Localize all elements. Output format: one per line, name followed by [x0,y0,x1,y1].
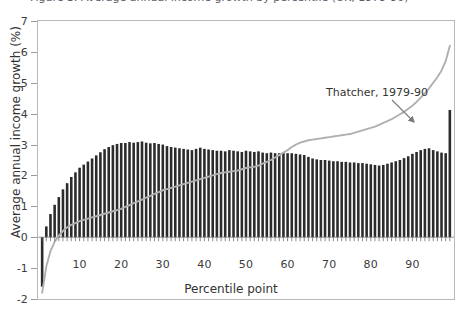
bar [403,158,406,237]
bar [58,197,61,237]
bar [424,149,427,237]
chart-root: Figure 3. Average annual income growth b… [0,0,462,313]
bar [282,153,285,238]
x-axis-label: Percentile point [0,282,462,296]
y-tick-label: -1 [17,262,28,275]
bar [336,161,339,237]
x-tick-label: 50 [239,258,253,271]
bar [224,151,227,237]
bar [41,237,44,286]
bar [195,149,198,237]
bar [166,146,169,237]
bar [399,160,402,237]
bar [261,153,264,238]
bar [428,148,431,237]
bar [207,150,210,238]
bar [220,151,223,237]
bar [415,152,418,237]
bar [87,162,90,238]
bar [394,161,397,237]
bar [103,149,106,237]
bar [411,154,414,237]
bar [345,162,348,237]
bar [116,144,119,237]
bar [307,157,310,237]
x-tick-label: 10 [72,258,86,271]
chart-title: Figure 3. Average annual income growth b… [30,0,409,4]
bar [311,158,314,237]
bar [186,150,189,238]
bar [170,147,173,237]
bar [74,172,77,237]
bar [241,152,244,237]
bar [182,149,185,237]
bar [266,153,269,237]
bar [107,147,110,237]
y-tick-label: 2 [21,169,28,182]
bar [274,153,277,237]
annotation-arrow-icon [390,98,426,130]
bar [253,152,256,237]
bar [436,151,439,237]
bar [95,155,98,237]
y-tick-label: 5 [21,76,28,89]
bar [419,150,422,237]
bar [365,164,368,238]
y-tick-label: 6 [21,45,28,58]
bar [361,163,364,237]
bar [191,150,194,237]
bar [382,165,385,237]
bar [91,158,94,237]
bar [211,150,214,237]
bar [153,143,156,237]
bar [137,142,140,237]
bar [286,153,289,237]
bar [174,148,177,238]
x-tick-label: 20 [114,258,128,271]
bar [357,163,360,237]
bar [149,143,152,237]
bar [236,151,239,237]
bar [390,162,393,237]
y-tick-label: 4 [21,107,28,120]
bar [216,151,219,237]
bar [449,110,452,237]
bar [320,160,323,237]
bar [124,143,127,237]
bar [82,165,85,238]
x-tick-label: 90 [405,258,419,271]
bar [386,164,389,238]
y-axis: 76543210-1-2 [0,0,37,313]
y-tick-label: 0 [21,231,28,244]
y-tick-label: 1 [21,200,28,213]
bar [203,149,206,237]
bar [49,214,52,237]
bar [440,153,443,238]
bar [349,162,352,237]
bar [99,152,102,237]
bar [141,141,144,237]
bar [299,154,302,237]
bar [432,150,435,237]
bar [407,156,410,237]
bar [324,160,327,237]
bar [128,142,131,237]
bar [145,143,148,238]
bar [199,148,202,238]
bar [374,165,377,237]
bar [232,151,235,237]
bar [353,162,356,237]
bar [45,226,48,237]
bar [120,143,123,237]
x-tick-label: 80 [364,258,378,271]
bar [340,162,343,237]
clipped-title-strip: Figure 3. Average annual income growth b… [0,0,462,9]
x-tick-label: 60 [280,258,294,271]
bar [270,153,273,238]
y-tick-label: 7 [21,15,28,28]
bar [295,154,298,237]
bar [249,151,252,237]
bar [303,155,306,237]
bar [278,153,281,237]
bar [53,205,56,237]
